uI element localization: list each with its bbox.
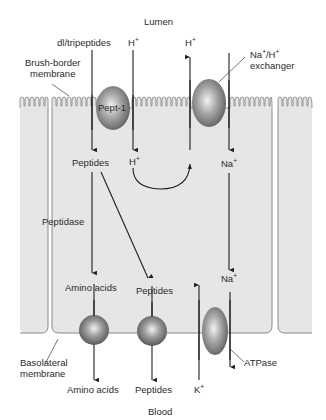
na-h-exchanger-label: Na+/H+ exchanger — [250, 49, 294, 71]
atpase-label: ATPase — [244, 357, 277, 368]
peptides-cell-label: Peptides — [72, 157, 109, 168]
lumen-label: Lumen — [144, 16, 173, 27]
basolateral-membrane-label: Basolateral membrane — [20, 357, 68, 379]
right-neighbor-cell — [278, 108, 312, 333]
k-plus-label: K+ — [194, 384, 204, 395]
brush-border-label: Brush-border membrane — [25, 57, 80, 79]
h-plus-lumen-label-2: H+ — [185, 37, 196, 48]
pept1-label: Pept-1 — [98, 102, 126, 113]
na-h-exchanger-transporter — [192, 79, 226, 127]
di-tripeptides-label: dl/tripeptides — [57, 37, 111, 48]
leader-exchanger — [219, 57, 245, 82]
peptidase-label: Peptidase — [42, 216, 84, 227]
na-plus-cell-label: Na+ — [221, 158, 237, 169]
h-plus-cell-label: H+ — [129, 156, 140, 167]
leader-brush-border — [52, 84, 69, 96]
amino-acids-cell-label: Amino acids — [65, 282, 117, 293]
na-plus-basal-label: Na+ — [221, 273, 237, 284]
blood-label: Blood — [148, 406, 172, 417]
amino-acids-blood-label: Amino acids — [67, 384, 119, 395]
peptides-basal-label: Peptides — [136, 285, 173, 296]
microvilli — [20, 97, 312, 108]
peptide-basolateral-transporter — [137, 316, 167, 346]
amino-acid-basolateral-transporter — [79, 315, 109, 345]
peptides-blood-label: Peptides — [135, 384, 172, 395]
h-plus-lumen-label-1: H+ — [128, 37, 139, 48]
main-enterocyte — [52, 108, 272, 333]
na-k-atpase-transporter — [202, 307, 228, 355]
leader-atpase — [229, 348, 244, 362]
